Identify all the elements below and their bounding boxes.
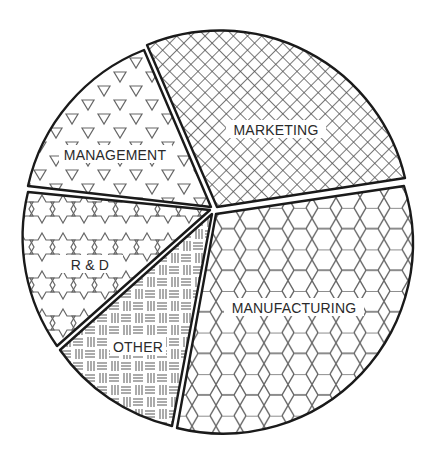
label-other-group: OTHER [110, 337, 166, 355]
label-manufacturing-group: MANUFACTURING [224, 298, 364, 316]
label-manufacturing: MANUFACTURING [232, 300, 357, 316]
label-marketing-group: MARKETING [226, 120, 326, 138]
label-management: MANAGEMENT [64, 147, 167, 163]
label-r-and-d: R & D [71, 257, 109, 273]
pie-chart: MARKETING MANAGEMENT R & D MANUFACTURING… [0, 0, 428, 457]
label-rnd-group: R & D [57, 255, 123, 273]
label-management-group: MANAGEMENT [59, 145, 172, 163]
label-marketing: MARKETING [233, 122, 318, 138]
label-other: OTHER [113, 339, 163, 355]
